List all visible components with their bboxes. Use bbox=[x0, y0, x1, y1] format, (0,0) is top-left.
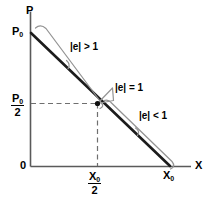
chart-canvas bbox=[0, 0, 215, 203]
unit-elastic-annotation-label: |e| = 1 bbox=[115, 83, 143, 93]
x-axis-label: X bbox=[195, 160, 202, 171]
origin-label: 0 bbox=[20, 160, 26, 171]
x0-half-denominator: 2 bbox=[88, 184, 101, 196]
midpoint-marker-dot bbox=[95, 101, 100, 106]
unit-elastic-pointer-wedge bbox=[98, 88, 114, 104]
p0-half-numerator: P0 bbox=[11, 93, 24, 105]
x0-tick-label: X0 bbox=[163, 170, 174, 181]
x0-half-numerator: X0 bbox=[88, 171, 101, 183]
x0-half-num-subscript: 0 bbox=[96, 176, 100, 183]
p0-subscript: 0 bbox=[19, 31, 23, 38]
elastic-annotation-label: |e| > 1 bbox=[70, 42, 98, 52]
y-axis-label: P bbox=[26, 5, 33, 16]
elasticity-demand-curve-figure: P X 0 P0 P0 2 X0 2 X0 |e| > 1 |e| = 1 |e… bbox=[0, 0, 215, 203]
p0-half-tick-label: P0 2 bbox=[11, 93, 24, 118]
p0-tick-label: P0 bbox=[12, 26, 23, 37]
p0-half-denominator: 2 bbox=[11, 106, 24, 118]
demand-curve-line bbox=[31, 33, 170, 166]
x0-subscript: 0 bbox=[170, 175, 174, 182]
inelastic-annotation-label: |e| < 1 bbox=[139, 111, 167, 121]
p0-half-num-subscript: 0 bbox=[19, 98, 23, 105]
x0-half-tick-label: X0 2 bbox=[88, 171, 101, 196]
